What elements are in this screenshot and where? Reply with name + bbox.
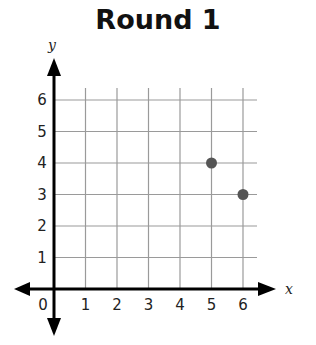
coordinate-plane: xy0123456123456 [0,0,316,345]
y-tick-label: 6 [37,91,47,109]
x-axis-arrow-right-icon [258,282,276,296]
data-point [206,158,217,169]
data-point [238,189,249,200]
y-tick-label: 5 [37,123,47,141]
y-axis-arrow-up-icon [47,58,61,76]
x-tick-label: 3 [144,296,154,314]
y-axis-arrow-down-icon [47,318,61,336]
x-axis-arrow-left-icon [14,282,30,296]
y-tick-label: 3 [37,186,47,204]
y-tick-label: 1 [37,249,47,267]
y-axis-label: y [47,37,57,53]
y-tick-label: 2 [37,217,47,235]
x-tick-label: 1 [81,296,91,314]
x-tick-label: 5 [207,296,217,314]
x-tick-label: 0 [38,296,48,314]
x-axis-label: x [285,281,293,297]
x-tick-label: 6 [238,296,248,314]
x-tick-label: 2 [112,296,122,314]
y-tick-label: 4 [37,154,47,172]
x-tick-label: 4 [175,296,185,314]
